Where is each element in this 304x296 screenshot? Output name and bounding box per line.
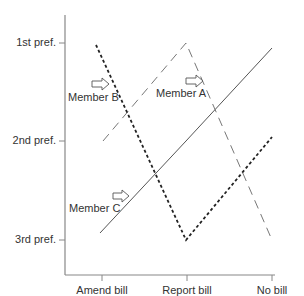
annotation-member-b: Member B — [68, 92, 119, 103]
x-label-amend-bill: Amend bill — [62, 285, 142, 296]
y-label-2nd-pref: 2nd pref. — [0, 135, 56, 146]
x-label-no-bill: No bill — [240, 285, 304, 296]
x-label-report-bill: Report bill — [147, 285, 227, 296]
y-label-1st-pref: 1st pref. — [0, 37, 56, 48]
arrow-icon-member-c — [113, 190, 129, 202]
arrow-icon-member-b — [92, 78, 109, 90]
annotation-member-c: Member C — [69, 203, 120, 214]
annotation-member-a: Member A — [156, 88, 206, 99]
y-label-3rd-pref: 3rd pref. — [0, 234, 56, 245]
series-member-c — [100, 48, 272, 233]
series-member-a — [103, 43, 272, 240]
